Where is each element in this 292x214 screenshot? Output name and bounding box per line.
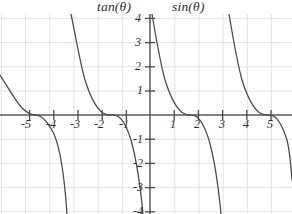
x-tick-label-neg1: -1 [119, 118, 129, 130]
y-tick-label-4: 4 [135, 12, 141, 24]
x-tick-label-neg2: -2 [94, 118, 104, 130]
plot-background [0, 0, 292, 214]
y-tick-label-2: 2 [135, 60, 141, 72]
y-tick-label-neg2: -2 [133, 157, 143, 169]
x-tick-label-neg3: -3 [70, 118, 80, 130]
x-tick-label-3: 3 [219, 118, 225, 130]
x-tick-label-5: 5 [267, 118, 273, 130]
tan-series-label: tan(θ) [97, 0, 131, 15]
x-tick-label-4: 4 [243, 118, 249, 130]
chart-figure: tan(θ) sin(θ) -5 -4 -3 -2 -1 1 2 3 4 5 4… [0, 0, 292, 214]
x-tick-label-1: 1 [170, 118, 176, 130]
y-tick-label-1: 1 [137, 84, 143, 96]
y-tick-label-neg1: -1 [133, 133, 143, 145]
y-tick-label-neg3: -3 [133, 181, 143, 193]
plot-canvas [0, 0, 292, 214]
x-tick-label-neg4: -4 [46, 118, 56, 130]
sin-series-label: sin(θ) [172, 0, 205, 15]
y-tick-label-neg4: -4 [133, 205, 143, 214]
x-tick-label-neg5: -5 [21, 118, 31, 130]
y-tick-label-3: 3 [135, 36, 141, 48]
x-tick-label-2: 2 [194, 118, 200, 130]
